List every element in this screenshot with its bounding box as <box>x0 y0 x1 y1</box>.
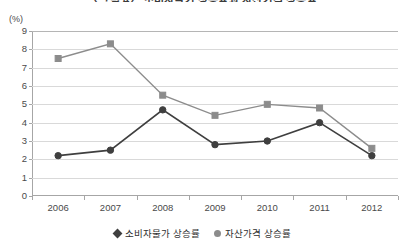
circle-marker-icon <box>214 230 221 237</box>
x-axis-tick-label-2011: 2011 <box>309 203 329 213</box>
y-axis-tick-label-7: 7 <box>22 63 27 73</box>
data-point-1-2007 <box>107 41 113 47</box>
x-axis-tick-label-2007: 2007 <box>100 203 121 213</box>
line-chart: 〈그림 4〉 소비자물가 상승률과 자산가격 상승률 (%) 012345678… <box>0 0 405 249</box>
data-point-0-2010 <box>264 138 270 144</box>
x-axis-tick-label-2006: 2006 <box>48 203 69 213</box>
x-axis-tick-label-2012: 2012 <box>361 203 382 213</box>
data-point-1-2009 <box>212 112 218 118</box>
y-axis-tick-label-2: 2 <box>22 155 27 165</box>
chart-legend: 소비자물가 상승률자산가격 상승률 <box>0 226 405 240</box>
legend-item-0[interactable]: 소비자물가 상승률 <box>114 226 200 240</box>
data-point-0-2012 <box>369 152 375 158</box>
x-axis-tick-label-2008: 2008 <box>152 203 173 213</box>
legend-item-label: 자산가격 상승률 <box>225 226 291 240</box>
data-point-1-2012 <box>369 145 375 151</box>
x-axis-tick-mark-2 <box>137 196 138 200</box>
data-point-1-2008 <box>160 92 166 98</box>
y-axis-tick-label-5: 5 <box>22 100 27 110</box>
y-axis-tick-label-9: 9 <box>22 26 27 36</box>
data-point-1-2011 <box>317 105 323 111</box>
plot-area: 0123456789 2006200720082009201020112012 <box>32 31 398 196</box>
data-point-0-2006 <box>55 152 61 158</box>
y-axis-tick-label-8: 8 <box>22 45 27 55</box>
x-axis-tick-mark-5 <box>293 196 294 200</box>
x-axis-tick-mark-6 <box>346 196 347 200</box>
y-axis-tick-label-1: 1 <box>22 173 27 183</box>
data-point-1-2006 <box>55 56 61 62</box>
y-axis-tick-label-3: 3 <box>22 136 27 146</box>
x-axis-tick-label-2010: 2010 <box>257 203 278 213</box>
chart-title: 〈그림 4〉 소비자물가 상승률과 자산가격 상승률 <box>0 0 405 2</box>
legend-item-label: 소비자물가 상승률 <box>125 226 200 240</box>
data-point-1-2010 <box>264 101 270 107</box>
x-axis-tick-mark-4 <box>241 196 242 200</box>
x-axis-tick-mark-3 <box>189 196 190 200</box>
y-axis-tick-label-4: 4 <box>22 118 27 128</box>
y-axis-tick-label-0: 0 <box>22 191 27 201</box>
data-point-0-2008 <box>160 107 166 113</box>
legend-item-1[interactable]: 자산가격 상승률 <box>214 226 291 240</box>
series-layer <box>32 31 398 196</box>
x-axis-tick-mark-0 <box>32 196 33 200</box>
diamond-marker-icon <box>113 228 123 238</box>
x-axis-tick-mark-7 <box>398 196 399 200</box>
data-point-0-2007 <box>107 147 113 153</box>
data-point-0-2009 <box>212 141 218 147</box>
series-line-1 <box>58 44 372 149</box>
y-axis-unit-label: (%) <box>9 14 23 24</box>
y-axis-tick-label-6: 6 <box>22 81 27 91</box>
data-point-0-2011 <box>316 119 322 125</box>
x-axis-tick-label-2009: 2009 <box>204 203 225 213</box>
x-axis-tick-mark-1 <box>84 196 85 200</box>
